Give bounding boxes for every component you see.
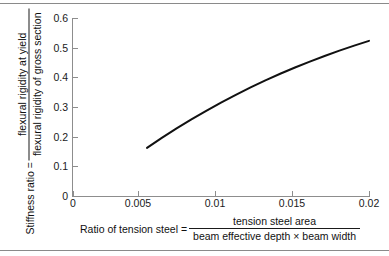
y-axis-title-lead: Stiffness ratio = (23, 162, 35, 234)
x-axis-title-lead: Ratio of tension steel = (80, 223, 187, 235)
y-axis-title: Stiffness ratio = flexural rigidity at y… (16, 0, 43, 246)
x-axis-title-denominator: beam effective depth × beam width (189, 229, 360, 242)
x-axis-title-fraction: tension steel area beam effective depth … (189, 215, 360, 242)
y-axis-title-numerator: flexural rigidity at yield (16, 29, 29, 140)
chart-figure: 0 0.1 0.2 0.3 0.4 0.5 0.6 0 0.005 0.01 0… (0, 0, 389, 256)
x-axis-title: Ratio of tension steel = tension steel a… (60, 215, 380, 242)
data-curve (147, 41, 369, 148)
y-axis-title-denominator: flexural rigidity of gross section (30, 8, 43, 160)
x-axis-title-numerator: tension steel area (229, 215, 320, 228)
y-axis-title-fraction: flexural rigidity at yield flexural rigi… (16, 8, 43, 160)
